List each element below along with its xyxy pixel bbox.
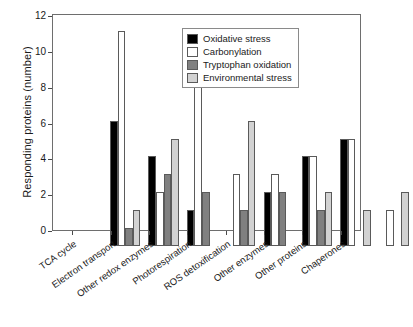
x-tick-mark <box>111 231 112 235</box>
y-tick-2: 2 <box>0 195 52 196</box>
bar <box>133 210 141 246</box>
bar <box>340 139 348 247</box>
x-tick-mark <box>149 231 150 235</box>
legend-item: Tryptophan oxidation <box>187 58 292 71</box>
y-tick-label: 0 <box>40 224 46 237</box>
legend-label: Carbonylation <box>203 46 262 58</box>
bar <box>309 156 317 246</box>
legend-label: Environmental stress <box>203 72 292 84</box>
legend-item: Environmental stress <box>187 71 292 84</box>
bar <box>240 210 248 246</box>
y-tick-mark <box>48 231 52 232</box>
x-tick-mark <box>302 231 303 235</box>
x-tick-mark <box>341 231 342 235</box>
bar <box>317 210 325 246</box>
y-tick-12: 12 <box>0 16 52 17</box>
bar <box>401 192 409 246</box>
y-tick-label: 12 <box>35 9 46 22</box>
bar <box>194 67 202 246</box>
bar <box>156 192 164 246</box>
y-tick-0: 0 <box>0 231 52 232</box>
legend-label: Tryptophan oxidation <box>203 59 291 71</box>
legend-swatch <box>187 73 198 83</box>
y-tick-label: 8 <box>40 81 46 94</box>
bar <box>171 139 179 247</box>
bar <box>233 174 241 246</box>
bar <box>118 31 126 246</box>
y-tick-10: 10 <box>0 52 52 53</box>
bar <box>325 192 333 246</box>
x-tick-mark <box>226 231 227 235</box>
x-tick-mark <box>72 231 73 235</box>
x-tick-mark <box>187 231 188 235</box>
x-tick-mark <box>264 231 265 235</box>
legend-item: Oxidative stress <box>187 32 292 45</box>
bar <box>386 210 394 246</box>
bar <box>279 192 287 246</box>
y-tick-4: 4 <box>0 159 52 160</box>
y-tick-label: 4 <box>40 152 46 165</box>
bar <box>164 174 172 246</box>
legend-label: Oxidative stress <box>203 33 271 45</box>
bar <box>125 228 133 246</box>
y-tick-label: 6 <box>40 117 46 130</box>
y-tick-label: 10 <box>35 45 46 58</box>
bar <box>248 121 256 246</box>
legend-item: Carbonylation <box>187 45 292 58</box>
y-axis-title: Responding proteins (number) <box>18 6 36 238</box>
bar <box>110 121 118 246</box>
bar <box>363 210 371 246</box>
legend-swatch <box>187 47 198 57</box>
bar <box>348 139 356 247</box>
y-tick-8: 8 <box>0 88 52 89</box>
y-tick-label: 2 <box>40 188 46 201</box>
chart-legend: Oxidative stressCarbonylationTryptophan … <box>182 28 299 88</box>
bar <box>271 174 279 246</box>
legend-swatch <box>187 34 198 44</box>
bar <box>202 192 210 246</box>
legend-swatch <box>187 60 198 70</box>
y-tick-6: 6 <box>0 124 52 125</box>
